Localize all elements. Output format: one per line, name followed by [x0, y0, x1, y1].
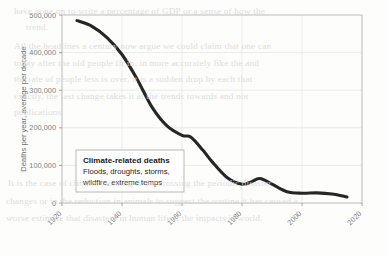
annotation-title: Climate-related deaths — [83, 156, 170, 165]
annotation-box: Climate-related deaths Floods, droughts,… — [76, 150, 184, 192]
y-axis-label: Deaths per year, average per decade — [19, 46, 28, 171]
annotation-line-1: Floods, droughts, storms, — [83, 167, 170, 176]
y-tick-label: 100,000 — [29, 161, 56, 170]
line-chart: 0100,000200,000300,000400,000500,000 192… — [0, 0, 388, 255]
y-tick-label: 300,000 — [29, 86, 56, 95]
y-tick-label: 500,000 — [29, 11, 56, 20]
y-tick-label: 0 — [52, 199, 56, 208]
y-tick-label: 200,000 — [29, 123, 56, 132]
y-tick-label: 400,000 — [29, 48, 56, 57]
annotation-line-2: wildfire, extreme temps — [82, 178, 162, 187]
climate-deaths-figure: have gone on to write a percentage of GD… — [0, 0, 388, 255]
